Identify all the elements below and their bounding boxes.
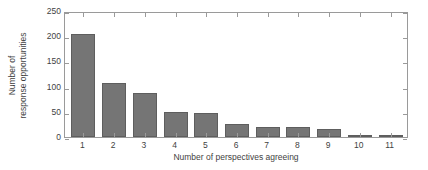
- y-axis-tick-label: 0: [56, 133, 61, 142]
- plot-inner: [65, 13, 407, 137]
- x-axis-tick-label: 3: [141, 140, 146, 151]
- x-axis-tick: [145, 13, 146, 17]
- x-axis-tick-label: 9: [326, 140, 331, 151]
- x-axis-tick: [298, 133, 299, 137]
- y-axis-tick-label: 100: [47, 83, 61, 92]
- x-axis-tick: [145, 133, 146, 137]
- x-axis-tick: [237, 13, 238, 17]
- x-axis-tick: [329, 13, 330, 17]
- y-axis-tick: [65, 38, 69, 39]
- y-axis-tick: [65, 114, 69, 115]
- y-axis-tick: [65, 63, 69, 64]
- plot-area: [64, 12, 408, 138]
- x-axis-tick: [176, 133, 177, 137]
- x-axis-tick: [298, 13, 299, 17]
- y-axis-title-line1: Number of: [7, 32, 18, 118]
- y-axis-tick-label: 150: [47, 57, 61, 66]
- x-axis-tick-label: 1: [80, 140, 85, 151]
- y-axis-tick: [403, 63, 407, 64]
- x-axis-tick: [360, 13, 361, 17]
- x-axis-tick: [268, 133, 269, 137]
- y-axis-tick: [403, 13, 407, 14]
- y-axis-tick-label: 50: [52, 108, 61, 117]
- y-axis-tick-label: 250: [47, 7, 61, 16]
- x-axis-tick-label: 4: [172, 140, 177, 151]
- x-axis-title: Number of perspectives agreeing: [64, 152, 408, 163]
- bar: [133, 93, 157, 137]
- x-axis-tick: [360, 133, 361, 137]
- bar: [71, 34, 95, 137]
- x-axis-tick: [114, 133, 115, 137]
- x-axis-tick: [206, 13, 207, 17]
- x-axis-tick-label: 2: [111, 140, 116, 151]
- x-axis-tick-label: 11: [385, 140, 394, 151]
- bar-chart-figure: Number of response opportunities 0501001…: [0, 0, 428, 170]
- y-axis-tick-label: 200: [47, 32, 61, 41]
- x-axis-tick-label: 10: [354, 140, 363, 151]
- y-axis-title: Number of response opportunities: [0, 0, 34, 150]
- y-axis-tick: [403, 38, 407, 39]
- x-axis-tick: [329, 133, 330, 137]
- x-axis-tick: [206, 133, 207, 137]
- y-axis-tick: [65, 89, 69, 90]
- y-axis-tick: [403, 114, 407, 115]
- x-axis-tick-label: 7: [264, 140, 269, 151]
- bar: [102, 83, 126, 137]
- y-axis-tick: [65, 13, 69, 14]
- y-axis-tick: [403, 89, 407, 90]
- x-axis-tick: [83, 13, 84, 17]
- x-axis-tick-label: 8: [295, 140, 300, 151]
- y-axis-title-line2: response opportunities: [17, 32, 28, 118]
- x-axis-tick: [268, 13, 269, 17]
- x-axis-tick-labels: 1234567891011: [64, 140, 408, 152]
- x-axis-tick: [237, 133, 238, 137]
- x-axis-tick: [176, 13, 177, 17]
- x-axis-tick: [83, 133, 84, 137]
- x-axis-tick: [114, 13, 115, 17]
- x-axis-tick: [391, 133, 392, 137]
- x-axis-tick-label: 6: [234, 140, 239, 151]
- y-axis-tick-labels: 050100150200250: [34, 0, 61, 170]
- x-axis-tick: [391, 13, 392, 17]
- x-axis-tick-label: 5: [203, 140, 208, 151]
